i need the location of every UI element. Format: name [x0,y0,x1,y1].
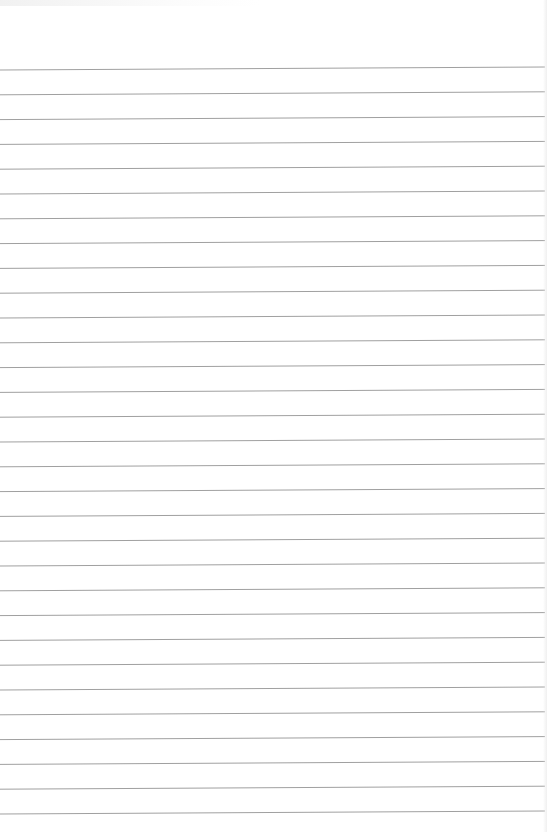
ruled-line [0,216,545,219]
ruled-line [0,166,545,169]
ruled-line [0,662,545,665]
ruled-line [0,489,545,492]
ruled-line [0,464,545,467]
ruled-line [0,563,545,566]
ruled-line [0,712,545,715]
ruled-line [0,811,545,814]
ruled-line [0,761,545,764]
ruled-line [0,588,545,591]
ruled-line [0,389,545,392]
lined-paper-page [0,0,547,832]
ruled-line [0,241,545,244]
page-right-edge [543,0,547,832]
ruled-line [0,737,545,740]
ruled-line [0,365,545,368]
ruled-line [0,265,545,268]
ruled-line [0,117,545,120]
ruled-line [0,67,545,70]
ruled-line [0,613,545,616]
ruled-line [0,786,545,789]
ruled-line [0,414,545,417]
ruled-line [0,439,545,442]
ruled-line [0,141,545,144]
ruled-line [0,92,545,95]
ruled-line [0,290,545,293]
ruled-line [0,637,545,640]
ruled-line [0,687,545,690]
ruled-line [0,315,545,318]
ruled-line [0,513,545,516]
ruled-line [0,191,545,194]
ruled-lines [0,0,547,832]
ruled-line [0,538,545,541]
ruled-line [0,340,545,343]
